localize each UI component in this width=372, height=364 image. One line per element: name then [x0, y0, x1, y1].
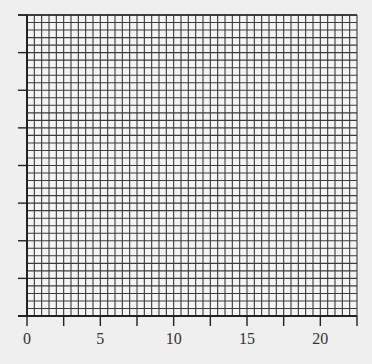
x-tick-label: 0 — [23, 331, 31, 347]
x-tick-label: 15 — [239, 331, 255, 347]
x-tick-label: 10 — [166, 331, 182, 347]
grid-lines — [27, 15, 357, 316]
graph-paper-chart — [0, 0, 372, 364]
x-tick-label: 20 — [312, 331, 328, 347]
x-tick-label: 5 — [96, 331, 104, 347]
